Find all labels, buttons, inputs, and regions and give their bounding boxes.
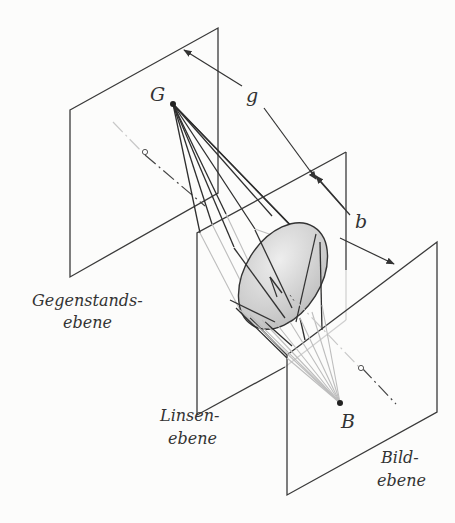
optical-axis-front — [362, 368, 396, 404]
label-g: g — [246, 84, 258, 106]
object-plane-axis-point — [142, 149, 147, 154]
label-lens-plane-line2: ebene — [168, 429, 217, 448]
image-plane-axis-point — [358, 365, 363, 370]
object-point-G — [170, 101, 176, 107]
label-b: b — [355, 210, 367, 232]
optical-axis-segment-1 — [145, 155, 205, 206]
label-object-plane-line1: Gegenstands- — [32, 291, 143, 310]
label-image-plane-line1: Bild- — [380, 448, 419, 467]
dimension-g — [184, 50, 316, 179]
label-G: G — [150, 83, 165, 105]
optics-diagram: G g b B Gegenstands- ebene Linsen- ebene… — [0, 0, 455, 523]
optical-axis-back — [113, 122, 145, 155]
label-object-plane-line2: ebene — [63, 313, 112, 332]
label-lens-plane-line1: Linsen- — [159, 406, 219, 425]
label-image-plane-line2: ebene — [377, 471, 426, 490]
image-point-B — [337, 400, 343, 406]
label-B: B — [340, 410, 355, 432]
